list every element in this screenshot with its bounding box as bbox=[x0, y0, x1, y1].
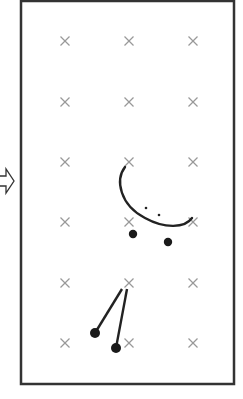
cross-mark-icon bbox=[189, 98, 198, 107]
cross-mark-icon bbox=[61, 279, 70, 288]
cross-mark-icon bbox=[125, 98, 134, 107]
pendulum-bob bbox=[90, 328, 100, 338]
cross-mark-icon bbox=[125, 37, 134, 46]
cross-mark-icon bbox=[125, 279, 134, 288]
cross-mark-icon bbox=[61, 158, 70, 167]
cross-mark-icon bbox=[125, 158, 134, 167]
cross-mark-icon bbox=[189, 279, 198, 288]
large-dot bbox=[129, 230, 137, 238]
cross-mark-icon bbox=[61, 98, 70, 107]
cross-mark-icon bbox=[125, 218, 134, 227]
cross-mark-icon bbox=[125, 339, 134, 348]
curved-arc bbox=[120, 167, 192, 226]
pendulum-rod bbox=[95, 289, 122, 333]
cross-mark-icon bbox=[189, 37, 198, 46]
cross-mark-icon bbox=[61, 339, 70, 348]
cross-mark-icon bbox=[61, 37, 70, 46]
pendulum-bob bbox=[111, 343, 121, 353]
small-dot bbox=[158, 214, 161, 217]
cross-mark-icon bbox=[189, 158, 198, 167]
cross-mark-icon bbox=[61, 218, 70, 227]
pendulum-lines bbox=[90, 289, 127, 353]
cross-mark-icon bbox=[189, 339, 198, 348]
small-dot bbox=[145, 207, 148, 210]
grid-cross-marks bbox=[61, 37, 198, 348]
large-dot bbox=[164, 238, 172, 246]
diagram-canvas bbox=[0, 0, 243, 399]
large-dots bbox=[129, 230, 172, 246]
right-arrow-icon bbox=[0, 169, 14, 193]
frame-rectangle bbox=[21, 1, 234, 384]
small-dots bbox=[145, 207, 161, 217]
